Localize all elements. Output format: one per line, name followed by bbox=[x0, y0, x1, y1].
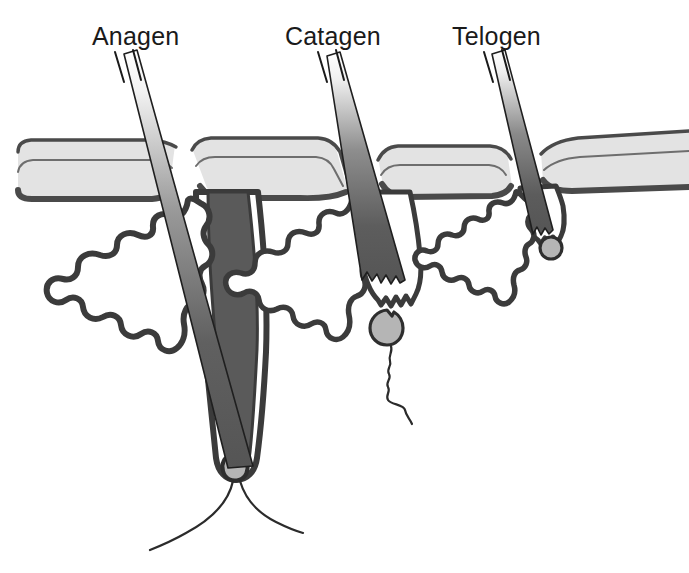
epidermis-fill-mid bbox=[192, 139, 347, 197]
hair-follicle-cycle-diagram: Anagen Catagen Telogen bbox=[0, 0, 689, 573]
hair-cycle-figure: Anagen Catagen Telogen bbox=[0, 0, 689, 573]
stage-label-telogen: Telogen bbox=[452, 22, 541, 50]
stage-label-catagen: Catagen bbox=[285, 22, 381, 50]
catagen-dermal-papilla bbox=[370, 310, 403, 345]
stage-label-anagen: Anagen bbox=[92, 22, 179, 50]
epidermis-fill-midright bbox=[378, 147, 512, 196]
telogen-dermal-papilla bbox=[540, 237, 562, 259]
